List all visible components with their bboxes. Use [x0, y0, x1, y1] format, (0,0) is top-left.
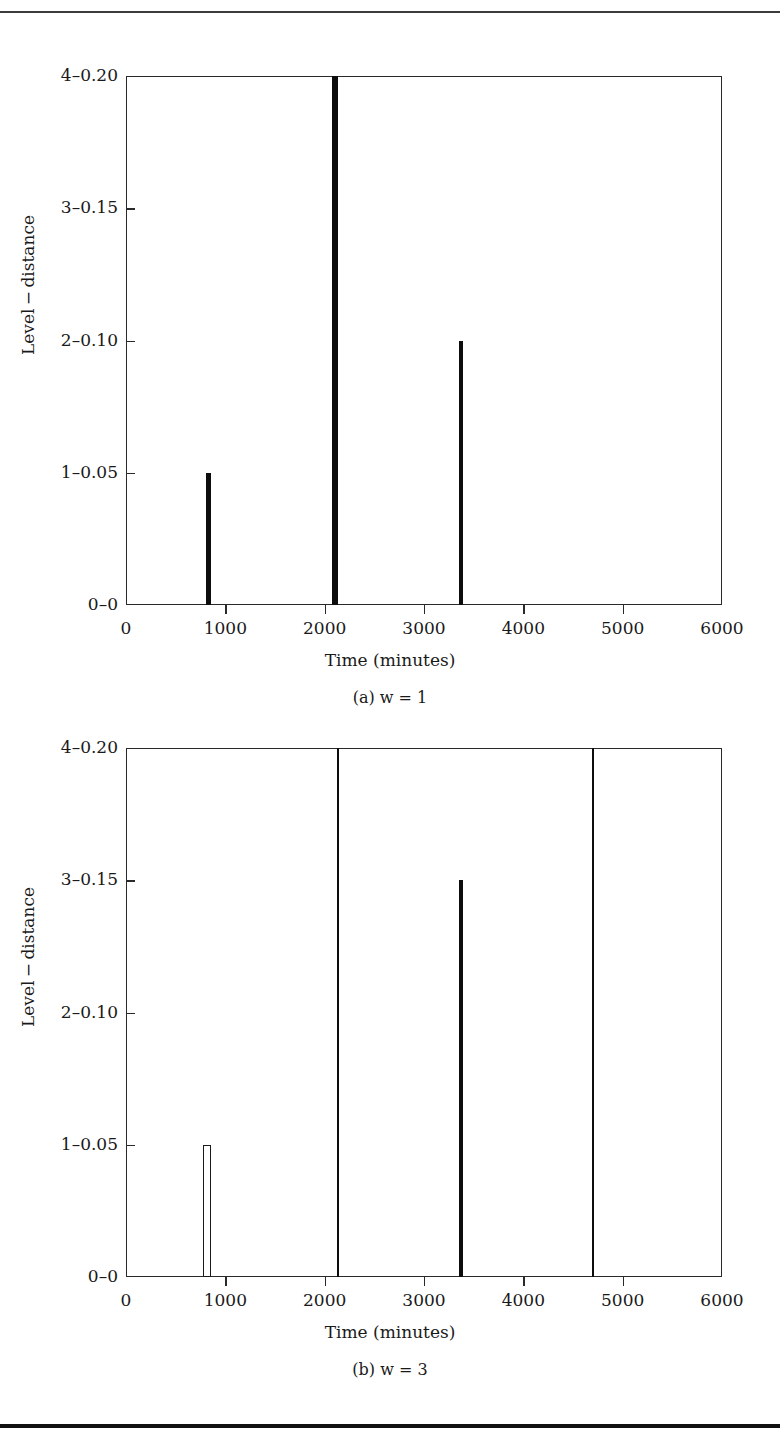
- x-tick-mark-b-3: [424, 1277, 425, 1286]
- y-tick-label-a-4: 4–0.20: [0, 65, 118, 85]
- x-tick-mark-a-2: [325, 605, 326, 614]
- x-tick-label-a-4: 4000: [478, 618, 568, 638]
- data-spike-a-1: [332, 76, 338, 605]
- y-tick-label-a-3: 3–0.15: [0, 197, 118, 217]
- data-spike-a-2: [459, 341, 463, 606]
- page-rule-top: [0, 11, 780, 13]
- x-axis-title-b: Time (minutes): [0, 1322, 780, 1342]
- y-tick-label-a-2: 2–0.10: [0, 330, 118, 350]
- x-tick-label-a-5: 5000: [578, 618, 668, 638]
- data-spike-a-0: [206, 473, 211, 605]
- x-tick-label-a-3: 3000: [379, 618, 469, 638]
- data-spike-b-1: [337, 748, 339, 1277]
- x-tick-label-b-4: 4000: [478, 1290, 568, 1310]
- x-tick-label-b-6: 6000: [677, 1290, 767, 1310]
- y-tick-label-a-0: 0–0: [0, 594, 118, 614]
- x-tick-mark-a-1: [225, 605, 226, 614]
- x-tick-label-b-3: 3000: [379, 1290, 469, 1310]
- running-head: [0, 0, 780, 9]
- x-tick-label-b-1: 1000: [180, 1290, 270, 1310]
- x-axis-title-a: Time (minutes): [0, 650, 780, 670]
- figure-a: Level − distance 0–01–0.052–0.103–0.154–…: [0, 40, 780, 700]
- y-tick-mark-a-2: [126, 341, 135, 342]
- y-tick-label-b-3: 3–0.15: [0, 869, 118, 889]
- x-tick-mark-b-2: [325, 1277, 326, 1286]
- figure-caption-a: (a) w = 1: [0, 688, 780, 707]
- x-tick-label-b-5: 5000: [578, 1290, 668, 1310]
- x-tick-mark-b-1: [225, 1277, 226, 1286]
- y-tick-label-a-1: 1–0.05: [0, 462, 118, 482]
- y-tick-label-b-1: 1–0.05: [0, 1134, 118, 1154]
- x-tick-label-a-1: 1000: [180, 618, 270, 638]
- x-tick-label-a-6: 6000: [677, 618, 767, 638]
- data-spike-b-2: [459, 880, 463, 1277]
- x-tick-label-a-0: 0: [81, 618, 171, 638]
- x-tick-mark-a-5: [623, 605, 624, 614]
- x-tick-mark-a-4: [523, 605, 524, 614]
- x-tick-label-b-2: 2000: [280, 1290, 370, 1310]
- plot-frame-b: [126, 748, 722, 1277]
- y-tick-mark-b-2: [126, 1013, 135, 1014]
- x-tick-mark-b-4: [523, 1277, 524, 1286]
- y-tick-label-b-0: 0–0: [0, 1266, 118, 1286]
- x-tick-label-a-2: 2000: [280, 618, 370, 638]
- data-spike-b-0: [203, 1145, 211, 1277]
- plot-frame-a: [126, 76, 722, 605]
- y-tick-mark-a-1: [126, 473, 135, 474]
- figure-b: Level − distance 0–01–0.052–0.103–0.154–…: [0, 712, 780, 1372]
- y-tick-mark-b-3: [126, 880, 135, 881]
- y-tick-label-b-2: 2–0.10: [0, 1002, 118, 1022]
- y-tick-mark-a-3: [126, 208, 135, 209]
- figure-caption-b: (b) w = 3: [0, 1360, 780, 1379]
- y-tick-label-b-4: 4–0.20: [0, 737, 118, 757]
- x-tick-label-b-0: 0: [81, 1290, 171, 1310]
- x-tick-mark-b-5: [623, 1277, 624, 1286]
- x-tick-mark-a-3: [424, 605, 425, 614]
- page-rule-bottom: [0, 1424, 780, 1428]
- data-spike-b-3: [592, 748, 594, 1277]
- y-tick-mark-b-1: [126, 1145, 135, 1146]
